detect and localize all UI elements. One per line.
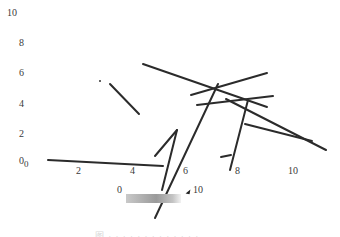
triangle-marker-icon — [186, 189, 191, 195]
y-tick-4: 4 — [19, 99, 24, 109]
y-tick-10: 10 — [7, 8, 17, 18]
segment-11 — [221, 155, 231, 157]
y-tick-8: 8 — [19, 38, 24, 48]
line-segments — [48, 64, 326, 218]
colorbar-max-label: 10 — [193, 184, 203, 195]
segment-12 — [110, 84, 139, 114]
x-tick-8: 8 — [235, 166, 240, 176]
x-tick-4: 4 — [130, 166, 135, 176]
y-tick-6: 6 — [19, 68, 24, 78]
x-tick-0: 0 — [24, 159, 29, 169]
origin-label: 00 — [19, 156, 29, 166]
x-tick-2: 2 — [76, 166, 81, 176]
point-marker — [99, 80, 101, 82]
x-tick-10: 10 — [288, 166, 298, 176]
y-tick-2: 2 — [19, 129, 24, 139]
x-tick-6: 6 — [183, 166, 188, 176]
colorbar — [126, 194, 181, 203]
colorbar-min-label: 0 — [117, 184, 122, 195]
figure-caption: 图 · · · · · · · · · · · · · — [95, 229, 265, 237]
segment-1 — [48, 160, 163, 166]
segment-8 — [230, 100, 248, 170]
